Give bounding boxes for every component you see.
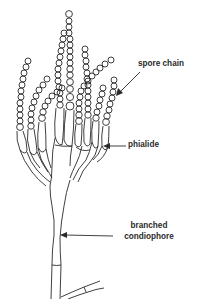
conidiophore-stalk	[50, 180, 104, 299]
arrowhead-icon	[116, 88, 123, 96]
spore-chain-label: spore chain	[138, 59, 184, 69]
conidiophore-diagram	[0, 0, 207, 299]
spore-chains	[17, 11, 117, 131]
arrowhead-icon	[60, 232, 67, 238]
spore-chain-b	[28, 76, 50, 129]
arrowhead-icon	[103, 143, 110, 149]
phialide-label: phialide	[128, 140, 159, 150]
branches	[20, 138, 108, 186]
spore-chain-pointer	[119, 72, 140, 93]
spore-chain-d	[55, 30, 67, 108]
branched-label: branched	[122, 221, 176, 231]
spore-chain-f	[82, 46, 91, 118]
condiophore-pointer	[64, 235, 113, 236]
spore-chain-i	[103, 77, 117, 125]
condiophore-label: condiophore	[114, 232, 184, 242]
spore-chain-e	[66, 11, 74, 110]
spore-chain-a	[17, 58, 31, 130]
